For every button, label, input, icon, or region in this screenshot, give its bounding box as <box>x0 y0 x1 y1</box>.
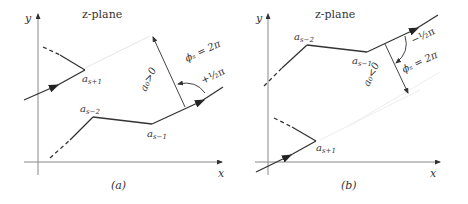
y-axis-label: y <box>255 12 263 25</box>
plane-title: z-plane <box>82 8 122 21</box>
segment <box>70 117 93 140</box>
segment <box>289 141 316 156</box>
normal-arrow <box>153 37 185 107</box>
y-axis-label: y <box>24 12 32 25</box>
caption-a: (a) <box>111 179 126 192</box>
label-a-s-minus-1: as−1 <box>147 128 167 141</box>
dashed-segment <box>50 140 70 158</box>
segment <box>292 127 316 141</box>
panel-a: y x z-plane as+1 as−2 as−1 a₀>0 ϕₛ = 2π … <box>24 8 227 192</box>
label-angle: +½π <box>199 65 226 86</box>
segment <box>200 87 223 102</box>
dashed-segment <box>274 118 292 127</box>
label-a-s-minus-2: as−2 <box>294 31 314 44</box>
x-axis-label: x <box>218 167 225 180</box>
incoming-arrow-segment <box>24 85 58 100</box>
x-axis-label: x <box>430 167 437 180</box>
incoming-arrow-segment <box>256 155 291 172</box>
label-a-s-minus-2: as−2 <box>80 103 100 116</box>
segment <box>282 45 307 68</box>
label-a-s-plus-1: as+1 <box>316 142 336 155</box>
guide-line <box>320 90 420 140</box>
label-a-s-plus-1: as+1 <box>82 73 102 86</box>
angle-arc <box>396 36 406 63</box>
caption-b: (b) <box>341 179 357 192</box>
diagram: y x z-plane as+1 as−2 as−1 a₀>0 ϕₛ = 2π … <box>0 0 468 204</box>
guide-line <box>85 36 150 68</box>
arrow-segment <box>152 100 204 124</box>
panel-b: y x z-plane as−2 as−1 as+1 a₀<0 ϕₛ = 2π <box>255 8 440 192</box>
segment <box>93 117 152 124</box>
segment <box>60 55 85 70</box>
label-a0-condition: a₀>0 <box>138 65 159 93</box>
segment <box>56 70 85 86</box>
segment <box>307 45 367 52</box>
label-phi: ϕₛ = 2π <box>183 38 222 64</box>
plane-title: z-plane <box>315 8 355 21</box>
dashed-segment <box>264 68 282 86</box>
label-phi: ϕₛ = 2π <box>400 49 439 75</box>
dashed-segment <box>43 47 60 55</box>
label-angle: −½π <box>409 25 436 46</box>
angle-arc <box>178 83 205 93</box>
